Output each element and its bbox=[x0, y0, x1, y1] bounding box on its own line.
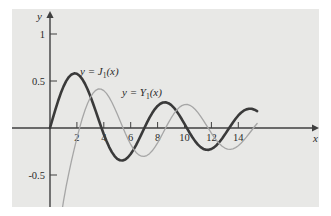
x-axis-arrowhead bbox=[312, 124, 319, 131]
y1-curve-label: y = Y1(x) bbox=[121, 86, 162, 101]
x-axis-label: x bbox=[312, 132, 318, 144]
x-tick-label: 10 bbox=[179, 132, 190, 143]
y-tick-label: 1 bbox=[40, 29, 45, 40]
j1-label-tail: (x) bbox=[106, 65, 119, 78]
y-axis-label: y bbox=[36, 10, 42, 22]
y1-label-tail: (x) bbox=[150, 86, 163, 99]
plot-area: x y 2468101214 10.5-0.5 y = J1(x) y = Y1… bbox=[12, 9, 319, 207]
y-tick-group: 10.5-0.5 bbox=[28, 29, 57, 181]
y-tick-label: 0.5 bbox=[32, 76, 45, 87]
x-tick-label: 8 bbox=[155, 132, 160, 143]
j1-curve-label: y = J1(x) bbox=[79, 65, 119, 80]
plot-svg: x y 2468101214 10.5-0.5 y = J1(x) y = Y1… bbox=[12, 9, 319, 207]
y-axis-arrowhead bbox=[46, 11, 53, 18]
j1-label-main: y = J bbox=[79, 65, 104, 77]
y-tick-label: -0.5 bbox=[28, 170, 45, 181]
bessel-function-figure: x y 2468101214 10.5-0.5 y = J1(x) y = Y1… bbox=[0, 0, 331, 216]
y1-label-main: y = Y bbox=[121, 86, 148, 98]
